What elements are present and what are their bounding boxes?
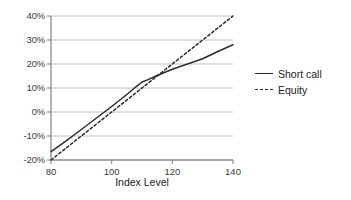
legend-item-short-call[interactable]: Short call [255, 66, 322, 82]
y-tick-label: -10% [2, 130, 45, 141]
chart-container: -20%-10%0%10%20%30%40% 80100120140 Index… [0, 0, 351, 200]
y-tick-label: 0% [2, 106, 45, 117]
legend-line-dotted-icon [255, 85, 273, 95]
y-tick-label: 20% [2, 58, 45, 69]
x-axis-title: Index Level [51, 176, 233, 188]
legend-line-solid-icon [255, 69, 273, 79]
y-tick-label: 40% [2, 10, 45, 21]
y-tick-label: 10% [2, 82, 45, 93]
legend-item-equity[interactable]: Equity [255, 82, 322, 98]
legend-label: Short call [278, 68, 322, 80]
y-tick-label: -20% [2, 154, 45, 165]
legend-label: Equity [278, 84, 307, 96]
gridlines [51, 16, 233, 136]
chart-legend: Short callEquity [255, 66, 322, 98]
y-tick-label: 30% [2, 34, 45, 45]
